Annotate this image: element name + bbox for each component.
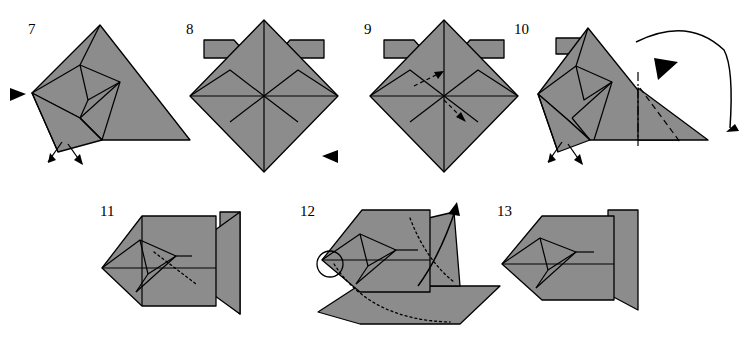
step-7-arrowhead-right-icon (74, 154, 83, 165)
step-10-figure (528, 10, 743, 200)
step-11-body (102, 216, 216, 306)
step-13-body (502, 216, 614, 300)
step-11-figure (92, 194, 282, 334)
step-12-body (322, 210, 430, 292)
step-8-triangle-arrowhead-icon (322, 150, 338, 163)
step-13-figure (490, 194, 680, 324)
step-7-arrowhead-left-icon (48, 153, 56, 163)
step-9-figure (358, 10, 538, 190)
step-12-figure (300, 194, 520, 344)
step-8-figure (178, 10, 358, 190)
step-10-triangle-arrowhead-icon (654, 58, 678, 80)
step-10-curved-arrowhead-icon (726, 124, 739, 132)
step-10-arrowhead-left-icon (548, 153, 556, 163)
step-12-pull-arrowhead-icon (448, 202, 460, 216)
step-10-arrowhead-right-icon (574, 154, 583, 165)
step-7-triangle-arrowhead-icon (10, 88, 26, 101)
